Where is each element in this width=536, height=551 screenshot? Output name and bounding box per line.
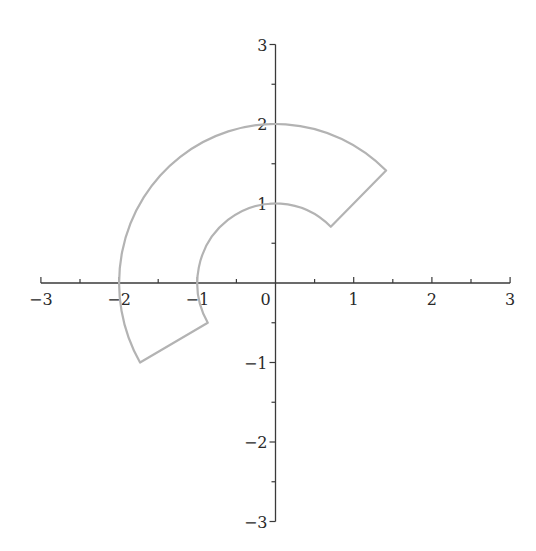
y-tick-label: −1 xyxy=(244,354,268,373)
y-tick-label: −3 xyxy=(244,513,268,532)
axes xyxy=(41,45,510,522)
x-tick-label: 2 xyxy=(427,290,437,309)
annular-sector-curve xyxy=(119,124,386,363)
x-tick-label: −3 xyxy=(29,290,53,309)
x-tick-label: 3 xyxy=(505,290,515,309)
x-tick-label: 0 xyxy=(260,290,270,309)
y-tick-label: 3 xyxy=(257,36,267,55)
y-tick-label: −2 xyxy=(244,433,268,452)
x-tick-label: 1 xyxy=(349,290,359,309)
plot-area: −3−2−10123−3−2−1123 xyxy=(0,0,536,551)
